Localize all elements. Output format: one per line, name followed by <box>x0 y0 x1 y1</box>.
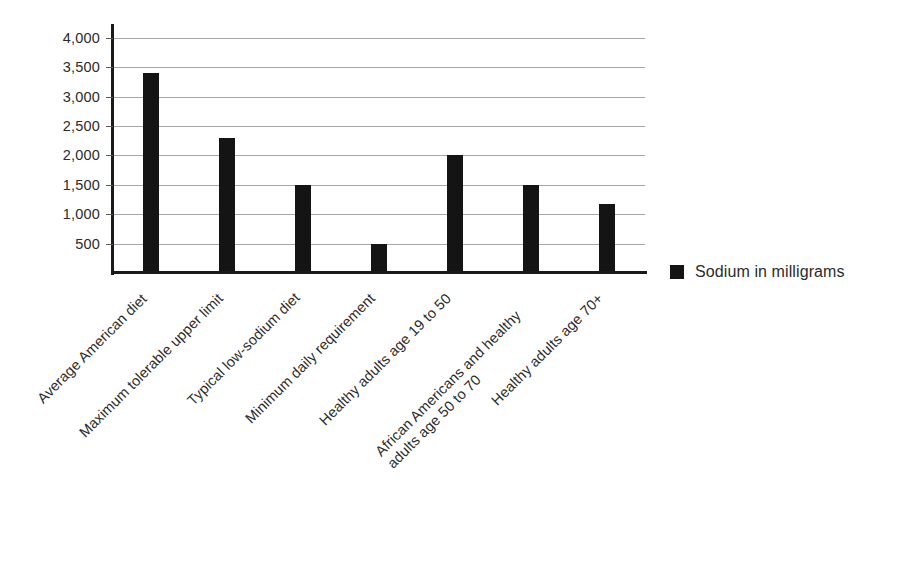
y-axis-tick-label: 3,500 <box>0 59 100 75</box>
y-axis-tick-label: 2,000 <box>0 147 100 163</box>
gridline <box>113 214 645 215</box>
x-axis-category-label: Minimum daily requirement <box>242 290 379 427</box>
y-axis-tick-label: 1,500 <box>0 177 100 193</box>
y-axis-tick <box>106 244 113 245</box>
legend-label: Sodium in milligrams <box>695 263 845 281</box>
plot-area <box>113 26 645 273</box>
y-axis-tick <box>106 185 113 186</box>
x-axis-line <box>111 271 647 274</box>
gridline <box>113 185 645 186</box>
y-axis-tick <box>106 38 113 39</box>
y-axis-tick <box>106 214 113 215</box>
bar[interactable] <box>143 73 159 273</box>
gridline <box>113 38 645 39</box>
bar[interactable] <box>599 204 615 273</box>
y-axis-line <box>111 24 114 275</box>
bar[interactable] <box>219 138 235 273</box>
gridline <box>113 126 645 127</box>
bar[interactable] <box>523 185 539 273</box>
y-axis-tick <box>106 67 113 68</box>
y-axis-tick-labels: 5001,0001,5002,0002,5003,0003,5004,000 <box>0 0 100 576</box>
gridline <box>113 67 645 68</box>
gridline <box>113 97 645 98</box>
y-axis-tick-label: 4,000 <box>0 30 100 46</box>
y-axis-tick-label: 500 <box>0 236 100 252</box>
y-axis-tick-label: 2,500 <box>0 118 100 134</box>
bar[interactable] <box>371 244 387 273</box>
y-axis-tick <box>106 155 113 156</box>
y-axis-tick <box>106 97 113 98</box>
bar[interactable] <box>295 185 311 273</box>
y-axis-tick <box>106 126 113 127</box>
gridline <box>113 155 645 156</box>
legend-swatch-icon <box>670 265 684 279</box>
y-axis-tick-label: 1,000 <box>0 206 100 222</box>
bar[interactable] <box>447 155 463 273</box>
chart-legend: Sodium in milligrams <box>670 263 845 281</box>
sodium-bar-chart: 5001,0001,5002,0002,5003,0003,5004,000 A… <box>0 0 924 576</box>
y-axis-tick-label: 3,000 <box>0 89 100 105</box>
